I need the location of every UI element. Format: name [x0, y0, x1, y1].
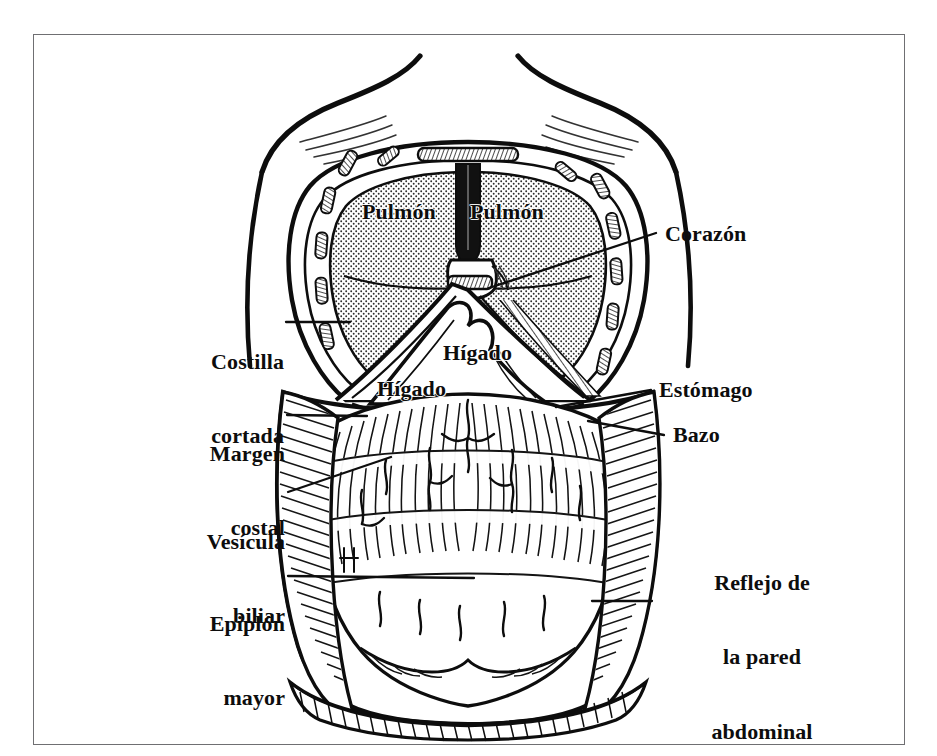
label-margen-costal-line1: Margen [45, 442, 285, 467]
label-epiplon-mayor: Epiplón mayor [45, 562, 285, 756]
label-estomago: Estómago [659, 378, 753, 403]
label-bazo: Bazo [673, 423, 720, 448]
label-reflejo-line1: Reflejo de [662, 571, 862, 596]
label-epiplon-mayor-line2: mayor [45, 686, 285, 711]
leader-margen [287, 415, 367, 416]
label-pulmon-izquierdo: Pulmón [362, 200, 436, 225]
label-higado-superior: Hígado [443, 341, 512, 366]
anatomy-figure: Pulmón Pulmón Corazón Costilla cortada H… [0, 0, 937, 756]
label-higado-inferior: Hígado [377, 377, 446, 402]
label-corazon: Corazón [665, 222, 746, 247]
label-reflejo-line3: abdominal [662, 720, 862, 745]
label-vesicula-biliar-line1: Vesícula [45, 530, 285, 555]
label-reflejo-line2: la pared [662, 645, 862, 670]
label-pulmon-derecho: Pulmón [470, 200, 544, 225]
label-reflejo-pared-abdominal: Reflejo de la pared abdominal [662, 521, 862, 756]
label-costilla-cortada-line1: Costilla [44, 350, 284, 375]
label-epiplon-mayor-line1: Epiplón [45, 612, 285, 637]
